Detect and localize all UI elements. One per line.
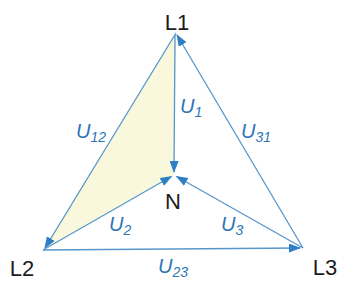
vector-label-u1: U1 (180, 95, 202, 120)
vector-label-u1-symbol: U (180, 95, 195, 117)
vector-label-u23-sub: 23 (171, 264, 188, 280)
vector-label-u31: U31 (241, 120, 271, 145)
vector-label-u2-symbol: U (109, 213, 124, 235)
node-label-l3: L3 (313, 255, 337, 280)
vector-label-u2: U2 (109, 213, 131, 238)
vector-label-u12-sub: 12 (90, 129, 106, 145)
node-label-l1: L1 (165, 10, 189, 35)
vector-label-u23-symbol: U (158, 255, 173, 277)
vector-u31-arrow (177, 35, 303, 248)
vector-label-u23: U23 (158, 255, 188, 280)
vector-label-u3-symbol: U (221, 213, 236, 235)
node-label-n: N (165, 189, 181, 214)
vector-label-u12-symbol: U (76, 120, 91, 142)
vector-label-u1-sub: 1 (194, 104, 202, 120)
vector-label-u3: U3 (221, 213, 243, 238)
vector-label-u12: U12 (76, 120, 106, 145)
vector-label-u3-sub: 3 (235, 222, 243, 238)
vector-label-u31-sub: 31 (255, 129, 271, 145)
vector-u23-arrow (43, 248, 300, 250)
vector-label-u31-symbol: U (241, 120, 256, 142)
phasor-diagram: L1 L2 L3 N U1 U12 U31 U2 U3 U23 (0, 0, 347, 290)
vector-label-u2-sub: 2 (122, 222, 131, 238)
node-label-l2: L2 (10, 256, 34, 281)
phasor-diagram-canvas: L1 L2 L3 N U1 U12 U31 U2 U3 U23 (0, 0, 347, 290)
